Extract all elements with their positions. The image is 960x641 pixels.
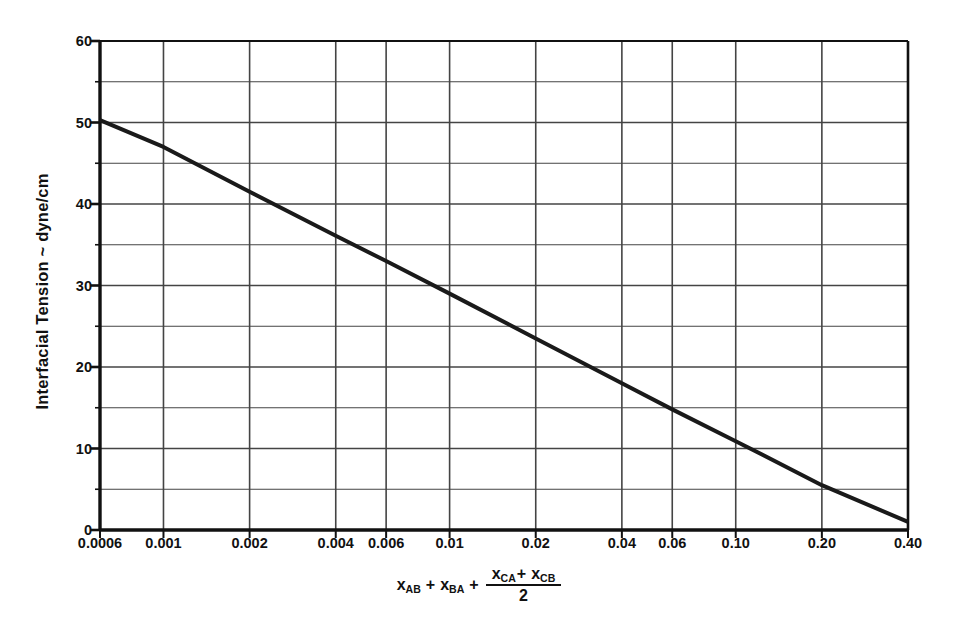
x-tick-label: 0.002 bbox=[231, 535, 267, 551]
x-tick-label: 0.20 bbox=[808, 535, 836, 551]
formula-term-xca-base: x bbox=[492, 565, 501, 582]
formula-fraction-numerator: xCA+xCB bbox=[486, 565, 562, 586]
formula-fraction: xCA+xCB 2 bbox=[486, 565, 562, 605]
formula-term-xba-base: x bbox=[440, 576, 449, 593]
formula-term-xcb-sub: CB bbox=[540, 572, 555, 584]
x-tick-label: 0.006 bbox=[368, 535, 404, 551]
formula-term-xcb-base: x bbox=[531, 565, 540, 582]
x-tick-label: 0.01 bbox=[435, 535, 463, 551]
formula-term-xcb: xCB bbox=[531, 565, 555, 582]
formula-term-xca: xCA bbox=[492, 565, 516, 582]
x-axis-tick-labels: 0.00060.0010.0020.0040.0060.010.020.040.… bbox=[0, 0, 960, 641]
x-tick-label: 0.40 bbox=[894, 535, 922, 551]
formula-term-xab-base: x bbox=[397, 576, 406, 593]
formula-plus-2: + bbox=[469, 576, 478, 594]
x-axis-formula: xAB + xBA + xCA+xCB 2 bbox=[397, 565, 564, 605]
x-tick-label: 0.10 bbox=[722, 535, 750, 551]
x-tick-label: 0.06 bbox=[658, 535, 686, 551]
x-tick-label: 0.02 bbox=[522, 535, 550, 551]
formula-term-xab-sub: AB bbox=[406, 583, 421, 595]
formula-term-xab: xAB bbox=[397, 576, 421, 594]
formula-plus-1: + bbox=[426, 576, 435, 594]
formula-numerator-plus: + bbox=[517, 565, 526, 582]
x-tick-label: 0.001 bbox=[145, 535, 181, 551]
x-axis-label: xAB + xBA + xCA+xCB 2 bbox=[0, 565, 960, 605]
x-tick-label: 0.04 bbox=[608, 535, 636, 551]
x-tick-label: 0.004 bbox=[318, 535, 354, 551]
chart-figure: Interfacial Tension ~ dyne/cm 0102030405… bbox=[0, 0, 960, 641]
formula-term-xba-sub: BA bbox=[449, 583, 464, 595]
formula-term-xca-sub: CA bbox=[501, 572, 516, 584]
formula-term-xba: xBA bbox=[440, 576, 464, 594]
x-tick-label: 0.0006 bbox=[78, 535, 122, 551]
formula-fraction-denominator: 2 bbox=[519, 586, 528, 605]
